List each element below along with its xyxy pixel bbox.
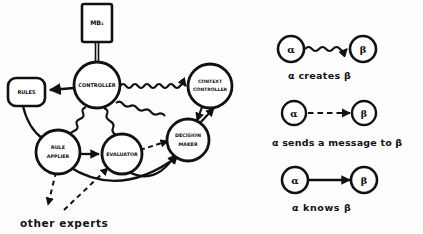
- legend-creates-source-label: α: [287, 44, 295, 55]
- node-label-rule-applier-line1: RULE: [51, 145, 65, 150]
- legend-message-target-label: β: [361, 108, 367, 119]
- legend-creates-target-label: β: [360, 44, 367, 55]
- node-controller[interactable]: CONTROLLER: [74, 62, 120, 108]
- legend-message-source-label: α: [290, 108, 298, 119]
- architecture-diagram-figure: MB₁ RULES CONTROLLER CO: [0, 0, 423, 234]
- node-label-context-controller-line1: CONTEXT: [198, 79, 223, 84]
- node-label-controller: CONTROLLER: [78, 82, 115, 88]
- node-decision-maker[interactable]: DECISION MAKER: [167, 119, 209, 161]
- legend-knows-target-label: β: [361, 175, 368, 186]
- node-evaluator[interactable]: EVALUATOR: [102, 134, 142, 174]
- legend-creates-caption: α creates β: [288, 70, 351, 81]
- rule-applier-circle-shape: [36, 130, 80, 174]
- node-mb1[interactable]: MB₁: [82, 4, 112, 42]
- node-rule-applier[interactable]: RULE APPLIER: [36, 130, 80, 174]
- node-label-mb1: MB₁: [90, 19, 104, 26]
- node-label-context-controller-line2: CONTROLLER: [193, 87, 228, 92]
- node-label-evaluator: EVALUATOR: [106, 152, 138, 157]
- node-label-decision-maker-line1: DECISION: [175, 133, 201, 138]
- decision-maker-circle-shape: [167, 119, 209, 161]
- legend-knows-caption: α knows β: [292, 202, 351, 213]
- node-label-decision-maker-line2: MAKER: [178, 142, 197, 147]
- node-label-rule-applier-line2: APPLIER: [47, 154, 70, 159]
- other-experts-caption: other experts: [20, 217, 108, 229]
- legend-message-caption: α sends a message to β: [272, 137, 402, 148]
- node-context-controller[interactable]: CONTEXT CONTROLLER: [188, 64, 232, 108]
- context-controller-circle-shape: [188, 64, 232, 108]
- node-label-rules: RULES: [17, 89, 36, 95]
- node-rules[interactable]: RULES: [8, 78, 45, 106]
- legend-knows-source-label: α: [291, 175, 299, 186]
